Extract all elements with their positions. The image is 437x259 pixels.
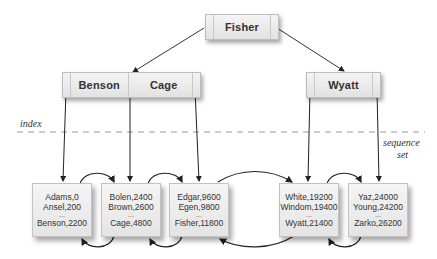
sequence-set-label-2: set — [397, 149, 408, 160]
record: Benson,2200 — [37, 218, 87, 228]
sequence-block: Yaz,24000 Young,24200 ... Zarko,26200 — [348, 183, 408, 237]
pointer-slot — [206, 15, 214, 39]
pointer-slot — [192, 73, 200, 97]
pointer-slot — [372, 73, 380, 97]
record: Zarko,26200 — [354, 218, 402, 228]
sequence-block: White,19200 Windom,19400 ... Wyatt,21400 — [279, 183, 339, 237]
record: Wyatt,21400 — [285, 218, 333, 228]
index-key: Cage — [136, 73, 193, 97]
record: White,19200 — [285, 192, 333, 202]
pointer-slot — [307, 73, 315, 97]
root-index-node: Fisher — [205, 14, 279, 40]
sequence-block: Bolen,2400 Brown,2600 ... Cage,4800 — [101, 183, 161, 237]
record: Fisher,11800 — [175, 218, 224, 228]
index-key: Benson — [71, 73, 128, 97]
sequence-block: Edgar,9600 Egen,9800 ... Fisher,11800 — [169, 183, 229, 237]
index-key: Fisher — [214, 15, 270, 39]
index-label: index — [20, 118, 42, 129]
record: Adams,0 — [45, 192, 79, 202]
record: Bolen,2400 — [109, 192, 152, 202]
record: Yaz,24000 — [358, 192, 398, 202]
pointer-slot — [63, 73, 71, 97]
record: Cage,4800 — [110, 218, 152, 228]
index-key: Wyatt — [315, 73, 372, 97]
sequence-block: Adams,0 Ansel,200 ... Benson,2200 — [32, 183, 92, 237]
pointer-slot — [128, 73, 136, 97]
index-node-wyatt: Wyatt — [306, 72, 381, 98]
record: Edgar,9600 — [177, 192, 220, 202]
sequence-set-label-1: sequence — [383, 137, 420, 148]
index-node-benson-cage: Benson Cage — [62, 72, 201, 98]
pointer-slot — [270, 15, 278, 39]
